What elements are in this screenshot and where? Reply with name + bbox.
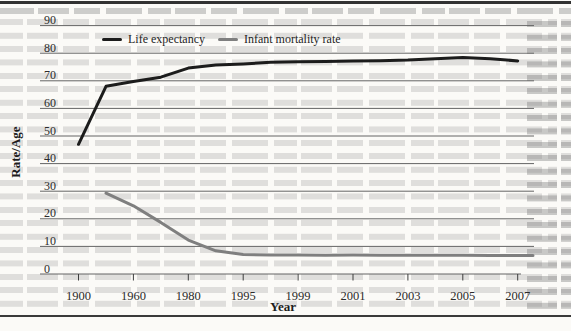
svg-text:80: 80 bbox=[44, 41, 56, 55]
legend-label: Infant mortality rate bbox=[244, 32, 341, 47]
svg-text:30: 30 bbox=[44, 179, 56, 193]
legend-item-infant-mortality: Infant mortality rate bbox=[218, 32, 341, 47]
svg-text:2007: 2007 bbox=[505, 289, 530, 303]
y-axis-title: Rate/Age bbox=[8, 120, 24, 184]
legend-label: Life expectancy bbox=[128, 32, 205, 47]
chart-legend: Life expectancy Infant mortality rate bbox=[102, 32, 341, 47]
svg-text:10: 10 bbox=[44, 234, 56, 248]
svg-text:2003: 2003 bbox=[395, 289, 420, 303]
svg-text:90: 90 bbox=[44, 13, 56, 27]
svg-text:50: 50 bbox=[44, 124, 56, 138]
scanned-page: 0102030405060708090190019601980199519992… bbox=[0, 0, 571, 331]
x-axis-title: Year bbox=[253, 299, 313, 315]
svg-text:60: 60 bbox=[44, 96, 56, 110]
svg-text:2001: 2001 bbox=[341, 289, 366, 303]
svg-text:1960: 1960 bbox=[121, 289, 146, 303]
line-swatch-icon bbox=[218, 38, 238, 41]
legend-item-life-expectancy: Life expectancy bbox=[102, 32, 205, 47]
svg-text:70: 70 bbox=[44, 68, 56, 82]
line-swatch-icon bbox=[102, 38, 122, 41]
svg-text:0: 0 bbox=[44, 262, 50, 276]
svg-text:20: 20 bbox=[44, 206, 56, 220]
svg-text:1995: 1995 bbox=[231, 289, 256, 303]
svg-text:1980: 1980 bbox=[176, 289, 201, 303]
svg-text:40: 40 bbox=[44, 151, 56, 165]
chart-canvas: 0102030405060708090190019601980199519992… bbox=[0, 0, 571, 331]
svg-text:1900: 1900 bbox=[66, 289, 91, 303]
svg-text:2005: 2005 bbox=[450, 289, 475, 303]
